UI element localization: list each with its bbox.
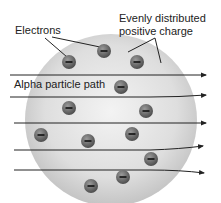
charge-label-line2: positive charge bbox=[119, 25, 193, 37]
alpha-path-label: Alpha particle path bbox=[14, 78, 105, 90]
thomson-model-diagram: Electrons Evenly distributed positive ch… bbox=[0, 0, 221, 203]
electrons-label: Electrons bbox=[15, 24, 61, 36]
charge-label-line1: Evenly distributed bbox=[119, 12, 206, 24]
positive-charge-sphere bbox=[25, 34, 197, 203]
